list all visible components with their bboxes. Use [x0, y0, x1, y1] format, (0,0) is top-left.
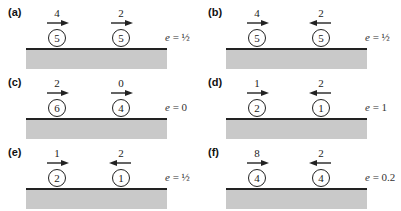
restitution-coefficient: e = 1	[365, 101, 387, 113]
velocity-indicator: 2	[309, 148, 333, 166]
velocity-value: 1	[45, 148, 69, 158]
e-symbol: e	[165, 31, 170, 43]
velocity-indicator: 2	[109, 148, 133, 166]
arrow-left-icon	[109, 160, 133, 166]
panel-label: (e)	[8, 146, 21, 158]
velocity-value: 2	[109, 148, 133, 158]
ground-surface	[26, 188, 167, 209]
velocity-value: 0	[109, 78, 133, 88]
e-value: = ½	[173, 171, 190, 183]
arrow-right-icon	[45, 160, 69, 166]
ball-mass: 2	[248, 99, 266, 117]
restitution-coefficient: e = ½	[165, 31, 190, 43]
panel-label: (a)	[8, 6, 21, 18]
ball-mass: 4	[112, 99, 130, 117]
ball-mass: 4	[248, 169, 266, 187]
ball-mass: 6	[48, 99, 66, 117]
panel-a: (a)4525e = ½	[0, 0, 200, 70]
velocity-value: 8	[245, 148, 269, 158]
panel-d: (d)1221e = 1	[200, 70, 400, 140]
arrow-left-icon	[309, 160, 333, 166]
ground-surface	[26, 118, 167, 139]
velocity-value: 2	[45, 78, 69, 88]
e-symbol: e	[365, 171, 370, 183]
ball-mass: 5	[112, 29, 130, 47]
restitution-coefficient: e = 0.2	[365, 171, 395, 183]
ball-mass: 1	[312, 99, 330, 117]
velocity-indicator: 0	[109, 78, 133, 96]
velocity-value: 2	[309, 8, 333, 18]
panel-label: (c)	[8, 76, 21, 88]
e-value: = 0.2	[373, 171, 396, 183]
velocity-indicator: 2	[45, 78, 69, 96]
arrow-right-icon	[245, 90, 269, 96]
ball-mass: 5	[312, 29, 330, 47]
e-value: = 1	[373, 101, 387, 113]
panel-f: (f)8424e = 0.2	[200, 140, 400, 210]
velocity-indicator: 2	[309, 78, 333, 96]
e-symbol: e	[165, 171, 170, 183]
arrow-right-icon	[245, 160, 269, 166]
velocity-indicator: 8	[245, 148, 269, 166]
ball-mass: 4	[312, 169, 330, 187]
velocity-value: 4	[245, 8, 269, 18]
panel-label: (d)	[208, 76, 222, 88]
velocity-indicator: 2	[109, 8, 133, 26]
arrow-left-icon	[309, 20, 333, 26]
e-symbol: e	[365, 31, 370, 43]
ground-surface	[226, 118, 367, 139]
ball-mass: 5	[248, 29, 266, 47]
velocity-indicator: 1	[45, 148, 69, 166]
ball-mass: 1	[112, 169, 130, 187]
panel-e: (e)1221e = ½	[0, 140, 200, 210]
restitution-coefficient: e = 0	[165, 101, 187, 113]
restitution-coefficient: e = ½	[165, 171, 190, 183]
velocity-value: 1	[245, 78, 269, 88]
ground-surface	[226, 188, 367, 209]
arrow-right-icon	[245, 20, 269, 26]
panel-c: (c)2604e = 0	[0, 70, 200, 140]
arrow-left-icon	[309, 90, 333, 96]
arrow-right-icon	[45, 20, 69, 26]
arrow-right-icon	[109, 20, 133, 26]
velocity-indicator: 4	[245, 8, 269, 26]
velocity-value: 4	[45, 8, 69, 18]
e-value: = ½	[373, 31, 390, 43]
ball-mass: 5	[48, 29, 66, 47]
e-symbol: e	[165, 101, 170, 113]
arrow-right-icon	[109, 90, 133, 96]
restitution-coefficient: e = ½	[365, 31, 390, 43]
velocity-indicator: 1	[245, 78, 269, 96]
panel-label: (b)	[208, 6, 222, 18]
e-value: = ½	[173, 31, 190, 43]
velocity-value: 2	[309, 78, 333, 88]
ground-surface	[26, 48, 167, 69]
e-value: = 0	[173, 101, 187, 113]
velocity-indicator: 4	[45, 8, 69, 26]
ground-surface	[226, 48, 367, 69]
e-symbol: e	[365, 101, 370, 113]
ball-mass: 2	[48, 169, 66, 187]
panel-label: (f)	[208, 146, 219, 158]
panel-b: (b)4525e = ½	[200, 0, 400, 70]
velocity-value: 2	[309, 148, 333, 158]
velocity-value: 2	[109, 8, 133, 18]
velocity-indicator: 2	[309, 8, 333, 26]
arrow-right-icon	[45, 90, 69, 96]
